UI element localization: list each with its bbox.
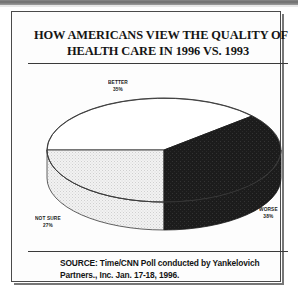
- page-title: HOW AMERICANS VIEW THE QUALITY OF HEALTH…: [34, 27, 282, 58]
- source-note-line-1: SOURCE: Time/CNN Poll conducted by Yanke…: [60, 258, 265, 270]
- page-title-line-1: HOW AMERICANS VIEW THE QUALITY OF: [34, 27, 282, 43]
- divider-bottom: [28, 251, 288, 252]
- pie-label-better-value: 35%: [108, 86, 128, 93]
- pie-chart-svg: [24, 65, 292, 250]
- scan-top-highlight: [0, 5, 298, 7]
- source-note: SOURCE: Time/CNN Poll conducted by Yanke…: [60, 258, 265, 281]
- pie-label-notsure-value: 27%: [35, 222, 61, 229]
- pie-label-worse: WORSE 38%: [259, 206, 278, 219]
- pie-label-notsure-name: NOT SURE: [35, 215, 61, 221]
- pie-label-better: BETTER 35%: [108, 79, 128, 92]
- pie-label-worse-name: WORSE: [259, 206, 278, 212]
- page-title-line-2: HEALTH CARE IN 1996 VS. 1993: [34, 43, 282, 59]
- chart-card: HOW AMERICANS VIEW THE QUALITY OF HEALTH…: [11, 11, 281, 282]
- source-note-line-2: Partners., Inc. Jan. 17-18, 1996.: [60, 270, 265, 282]
- pie-label-notsure: NOT SURE 27%: [35, 215, 61, 228]
- divider-top: [28, 63, 288, 64]
- pie-label-worse-value: 38%: [259, 213, 278, 220]
- pie-label-better-name: BETTER: [108, 79, 128, 85]
- pie-chart: [24, 65, 292, 250]
